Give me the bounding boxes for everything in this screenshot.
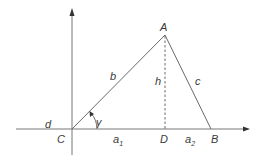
a1-subscript: 1 bbox=[119, 140, 123, 147]
angle-label-gamma: γ bbox=[96, 116, 103, 128]
side-label-h: h bbox=[155, 75, 161, 87]
x-axis-arrow-icon bbox=[243, 127, 250, 132]
side-b bbox=[72, 35, 165, 129]
vertex-label-c: C bbox=[57, 133, 65, 145]
label-d-lower: d bbox=[45, 118, 52, 130]
segment-label-a1: a1 bbox=[113, 133, 123, 147]
diagram-canvas: A C D B b h c d γ a1 a2 bbox=[0, 0, 258, 165]
a2-subscript: 2 bbox=[190, 140, 195, 147]
side-label-c: c bbox=[195, 75, 201, 87]
vertex-label-b: B bbox=[211, 133, 218, 145]
triangle-diagram: A C D B b h c d γ a1 a2 bbox=[0, 0, 258, 165]
vertex-label-a: A bbox=[159, 21, 167, 33]
y-axis-arrow-icon bbox=[70, 8, 75, 16]
side-c bbox=[165, 35, 211, 129]
segment-label-a2: a2 bbox=[185, 133, 195, 147]
side-label-b: b bbox=[110, 70, 116, 82]
vertex-label-d: D bbox=[160, 133, 168, 145]
